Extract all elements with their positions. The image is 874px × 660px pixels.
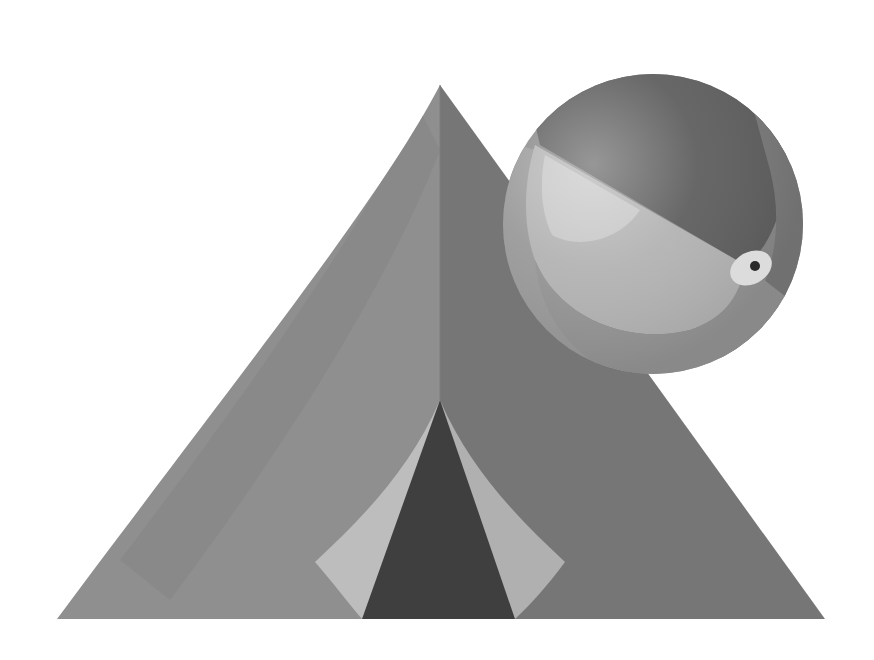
tent-and-ball-artwork <box>0 0 874 660</box>
ball-valve-hole <box>750 261 760 271</box>
illustration-canvas: Tent and beach ball illustration <box>0 0 874 660</box>
beach-ball <box>503 60 810 380</box>
